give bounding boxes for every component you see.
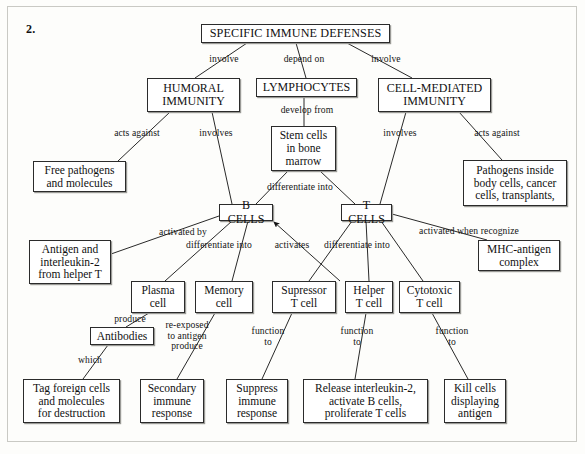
concept-node-helper-t-cell[interactable]: Helper T cell: [345, 281, 393, 313]
edge-label-sid-to-lymphocytes: depend on: [274, 54, 334, 65]
edge-label-bcells-to-plasma: differentiate into: [173, 240, 265, 251]
concept-node-t-cells[interactable]: T CELLS: [341, 204, 392, 221]
concept-node-plasma-cell[interactable]: Plasma cell: [131, 281, 185, 313]
edge-label-cellmediated-to-tcells: involves: [374, 128, 426, 139]
edge-label-bcells-to-antigen: activated by: [147, 227, 219, 238]
edge-label-sid-to-humoral: involve: [200, 54, 248, 65]
edge-label-antibodies-to-tag: which: [68, 355, 112, 366]
concept-node-antibodies[interactable]: Antibodies: [90, 327, 154, 345]
concept-node-release-interleukin[interactable]: Release interleukin-2, activate B cells,…: [303, 379, 428, 423]
connector-bcells-to-memory: [232, 221, 248, 281]
edge-label-lymphocytes-to-stemcells: develop from: [272, 105, 342, 116]
concept-node-mhc-antigen-complex[interactable]: MHC-antigen complex: [478, 240, 560, 271]
concept-node-stem-cells[interactable]: Stem cells in bone marrow: [271, 126, 336, 171]
concept-node-pathogens-inside[interactable]: Pathogens inside body cells, cancer cell…: [463, 160, 567, 206]
concept-node-lymphocytes[interactable]: LYMPHOCYTES: [256, 78, 357, 97]
edge-label-tcells-to-supressor: differentiate into: [311, 240, 403, 251]
edge-label-sid-to-cellmediated: involve: [362, 54, 410, 65]
concept-node-free-pathogens[interactable]: Free pathogens and molecules: [33, 161, 126, 192]
concept-node-cell-mediated-immunity[interactable]: CELL-MEDIATED IMMUNITY: [378, 78, 491, 112]
edge-label-cellmediated-to-pathogensinside: acts against: [462, 128, 532, 139]
concept-node-humoral-immunity[interactable]: HUMORAL IMMUNITY: [147, 78, 240, 112]
connector-cellmediated-to-tcells: [380, 112, 406, 204]
concept-node-antigen-interleukin[interactable]: Antigen and interleukin-2 from helper T: [29, 240, 111, 284]
connector-humoral-to-bcells: [212, 112, 232, 204]
concept-node-cytotoxic-t-cell[interactable]: Cytotoxic T cell: [399, 281, 460, 313]
edge-label-tcells-to-mhc: activated when recognize: [404, 226, 534, 237]
concept-node-supressor-t-cell[interactable]: Supressor T cell: [272, 281, 336, 313]
edge-label-humoral-to-freepathogens: acts against: [102, 128, 172, 139]
concept-map-page: 2. SPECIFIC IMMUNE DEFENSESHUMORAL IMMUN…: [0, 0, 585, 454]
edge-label-stemcells-to-bcells: differentiate into: [254, 182, 346, 193]
concept-node-tag-foreign-cells[interactable]: Tag foreign cells and molecules for dest…: [23, 379, 120, 423]
edge-label-helper-to-release: function to: [329, 326, 385, 347]
concept-node-suppress-immune-response[interactable]: Suppress immune response: [226, 379, 288, 423]
edge-label-supressor-to-suppress: function to: [240, 326, 296, 347]
connector-tcells-to-helper: [366, 221, 369, 281]
edge-label-memory-to-secondary: re-exposed to antigen produce: [155, 320, 219, 352]
edge-label-plasma-to-antibodies: produce: [104, 314, 156, 325]
concept-node-kill-cells[interactable]: Kill cells displaying antigen: [444, 379, 506, 423]
concept-node-b-cells[interactable]: B CELLS: [219, 204, 273, 221]
concept-node-secondary-immune-response[interactable]: Secondary immune response: [140, 379, 204, 423]
edge-label-cytotoxic-to-kill: function to: [424, 326, 480, 347]
concept-node-specific-immune-defenses[interactable]: SPECIFIC IMMUNE DEFENSES: [201, 24, 390, 43]
edge-label-humoral-to-bcells: involves: [190, 128, 242, 139]
concept-node-memory-cell[interactable]: Memory cell: [195, 281, 253, 313]
